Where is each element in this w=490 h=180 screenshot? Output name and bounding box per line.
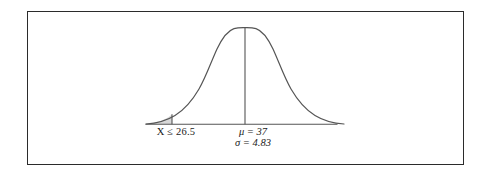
sigma-label: σ = 4.83 bbox=[225, 137, 281, 148]
tail-label: X ≤ 26.5 bbox=[146, 126, 206, 137]
tail-label-text: X ≤ 26.5 bbox=[157, 126, 196, 137]
figure-root: X ≤ 26.5 μ = 37 σ = 4.83 bbox=[0, 0, 490, 180]
parameter-labels: μ = 37 σ = 4.83 bbox=[225, 126, 281, 149]
mean-label: μ = 37 bbox=[225, 126, 281, 137]
